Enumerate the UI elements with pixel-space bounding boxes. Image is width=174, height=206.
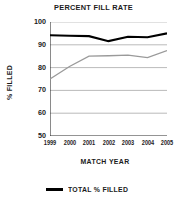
data-series-line: [50, 51, 167, 80]
y-axis-label: % FILLED: [5, 50, 14, 114]
x-axis-label: MATCH YEAR: [45, 157, 165, 166]
chart-legend: TOTAL % FILLED: [46, 185, 133, 194]
y-tick-label: 60: [24, 108, 46, 117]
y-tick-label: 100: [24, 17, 46, 26]
legend-line-swatch: [46, 188, 63, 191]
data-series-line: [50, 33, 167, 41]
plot-svg: [50, 22, 167, 136]
x-tick-label: 2001: [78, 139, 100, 146]
x-tick-label: 2003: [117, 139, 139, 146]
chart-title: PERCENT FILL RATE: [7, 3, 167, 12]
x-tick-label: 2005: [156, 139, 174, 146]
x-tick-label: 1999: [39, 139, 61, 146]
legend-item-label: TOTAL % FILLED: [68, 185, 128, 194]
y-tick-label: 90: [24, 40, 46, 49]
chart-container: PERCENT FILL RATE % FILLED MATCH YEAR 10…: [0, 0, 174, 206]
plot-area: [50, 22, 167, 136]
y-tick-label: 80: [24, 63, 46, 72]
y-tick-label: 70: [24, 85, 46, 94]
